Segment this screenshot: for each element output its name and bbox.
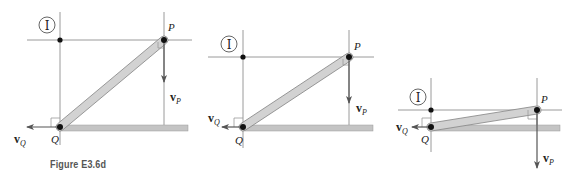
ground-surface (243, 125, 373, 131)
pin-p-dot (534, 107, 540, 113)
velocity-p-subscript: P (175, 97, 181, 106)
velocity-q-subscript: Q (20, 139, 26, 148)
figure-2: IPQvPvQ (208, 30, 374, 148)
velocity-q-label: vQ (208, 111, 220, 127)
pin-q-dot (428, 124, 434, 130)
point-p-label: P (540, 93, 548, 105)
figure-1: IPQvPvQ (14, 12, 192, 148)
instant-center-dot (240, 54, 245, 59)
instant-center-dot (428, 107, 433, 112)
instant-center-dot (57, 37, 62, 42)
velocity-q-label: vQ (14, 132, 26, 148)
pin-q-dot (240, 124, 246, 130)
figure-caption: Figure E3.6d (50, 158, 106, 170)
velocity-q-subscript: Q (214, 118, 220, 127)
velocity-p-label: vP (356, 101, 367, 117)
pin-q-dot (57, 124, 63, 130)
point-p-label: P (167, 21, 175, 33)
rigid-link-bar (54, 34, 169, 132)
ground-surface (60, 125, 188, 131)
velocity-p-label: vP (543, 151, 554, 167)
diagram-stage: IPQvPvQIPQvPvQIPQvPvQ Figure E3.6d (0, 0, 578, 177)
velocity-p-subscript: P (361, 108, 367, 117)
rigid-link-bar (237, 51, 354, 132)
velocity-p-label: vP (170, 90, 181, 106)
velocity-p-subscript: P (548, 158, 554, 167)
point-q-label: Q (235, 134, 243, 146)
velocity-q-label: vQ (396, 120, 408, 136)
point-q-label: Q (421, 133, 429, 145)
instant-center-label: I (416, 91, 421, 105)
kinematics-diagram: IPQvPvQIPQvPvQIPQvPvQ (0, 0, 578, 177)
pin-p-dot (161, 37, 167, 43)
velocity-q-subscript: Q (402, 127, 408, 136)
pin-p-dot (346, 54, 352, 60)
point-q-label: Q (51, 133, 59, 145)
instant-center-label: I (45, 19, 50, 33)
figure-3: IPQvPvQ (396, 78, 562, 168)
instant-center-label: I (227, 38, 232, 52)
point-p-label: P (353, 40, 361, 52)
